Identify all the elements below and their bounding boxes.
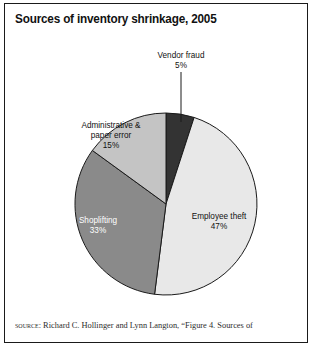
pie-label-vendor-fraud-name: Vendor fraud: [158, 51, 205, 60]
pie-label-employee-theft-name: Employee theft: [192, 212, 247, 221]
pie-label-administrative-paper-error: Administrative & paper error 15%: [63, 121, 159, 151]
pie-chart-svg: [5, 4, 309, 304]
pie-label-shoplifting-name: Shoplifting: [79, 216, 117, 225]
source-note-tag: source:: [15, 321, 41, 330]
source-note: source: Richard C. Hollinger and Lynn La…: [15, 320, 305, 331]
figure-panel: Sources of inventory shrinkage, 2005 Ven…: [4, 3, 308, 343]
pie-label-employee-theft: Employee theft 47%: [171, 212, 267, 232]
pie-label-employee-theft-value: 47%: [171, 222, 267, 232]
pie-label-administrative-value: 15%: [63, 141, 159, 151]
pie-label-shoplifting-value: 33%: [53, 226, 143, 236]
pie-label-shoplifting: Shoplifting 33%: [53, 216, 143, 236]
source-note-text: Richard C. Hollinger and Lynn Langton, “…: [43, 321, 253, 330]
pie-label-vendor-fraud-value: 5%: [136, 61, 226, 71]
pie-label-administrative-name-line2: paper error: [63, 131, 159, 141]
pie-label-administrative-name-line1: Administrative &: [81, 121, 140, 130]
pie-label-vendor-fraud: Vendor fraud 5%: [136, 51, 226, 71]
pie-chart: Vendor fraud 5% Administrative & paper e…: [5, 4, 309, 304]
